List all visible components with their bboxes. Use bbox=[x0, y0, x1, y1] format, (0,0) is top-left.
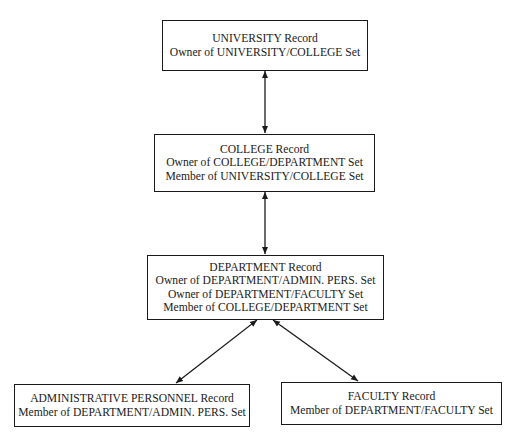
record-line: Member of UNIVERSITY/COLLEGE Set bbox=[165, 170, 363, 184]
record-line: Owner of DEPARTMENT/ADMIN. PERS. Set bbox=[156, 274, 376, 288]
record-title: COLLEGE Record bbox=[220, 143, 309, 157]
record-line: Member of DEPARTMENT/ADMIN. PERS. Set bbox=[18, 406, 246, 420]
record-line: Member of COLLEGE/DEPARTMENT Set bbox=[163, 301, 367, 315]
college-record-box: COLLEGE Record Owner of COLLEGE/DEPARTME… bbox=[154, 134, 375, 192]
faculty-record-box: FACULTY Record Member of DEPARTMENT/FACU… bbox=[281, 382, 502, 425]
department-record-box: DEPARTMENT Record Owner of DEPARTMENT/AD… bbox=[147, 255, 384, 320]
record-line: Owner of DEPARTMENT/FACULTY Set bbox=[168, 288, 363, 302]
record-title: ADMINISTRATIVE PERSONNEL Record bbox=[30, 392, 234, 406]
admin-personnel-record-box: ADMINISTRATIVE PERSONNEL Record Member o… bbox=[14, 384, 250, 427]
record-line: Member of DEPARTMENT/FACULTY Set bbox=[290, 404, 493, 418]
arrow-department-admin bbox=[176, 320, 257, 383]
record-line: Owner of UNIVERSITY/COLLEGE Set bbox=[170, 46, 360, 60]
record-title: UNIVERSITY Record bbox=[212, 32, 318, 46]
university-record-box: UNIVERSITY Record Owner of UNIVERSITY/CO… bbox=[162, 20, 368, 71]
record-title: DEPARTMENT Record bbox=[209, 261, 321, 275]
arrow-department-faculty bbox=[273, 320, 358, 381]
record-line: Owner of COLLEGE/DEPARTMENT Set bbox=[166, 156, 363, 170]
record-title: FACULTY Record bbox=[348, 390, 435, 404]
